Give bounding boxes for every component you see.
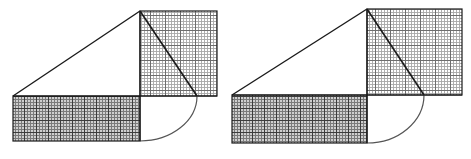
figure-left-rectangle-grid: [13, 96, 140, 141]
figure-left-square-grid: [140, 11, 217, 96]
figure-right-rectangle-grid: [232, 95, 367, 143]
geometry-diagram-canvas: [0, 0, 471, 159]
